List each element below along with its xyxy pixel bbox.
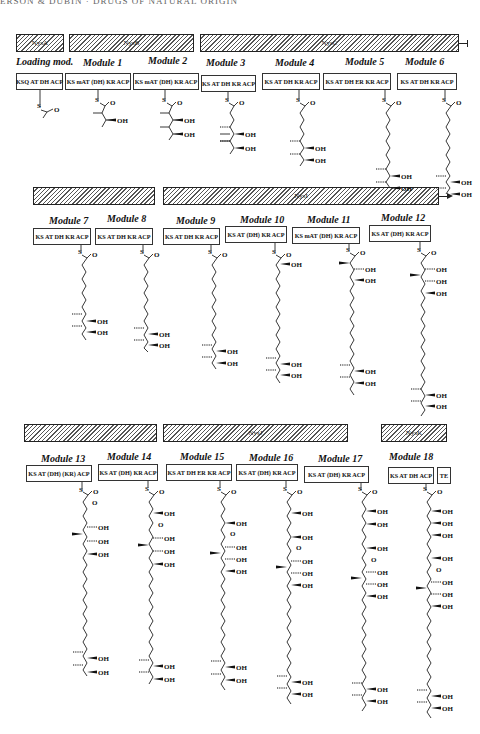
svg-text:O: O [371, 556, 377, 564]
svg-text:S: S [272, 248, 276, 256]
svg-text:S: S [442, 96, 446, 104]
svg-text:O: O [310, 99, 316, 107]
svg-text:O: O [158, 521, 164, 529]
svg-text:O: O [437, 488, 443, 496]
svg-text:S: S [382, 96, 386, 104]
svg-text:O: O [154, 251, 160, 259]
svg-text:O: O [230, 530, 236, 538]
svg-text:S: S [217, 485, 221, 493]
svg-text:S: S [346, 246, 350, 254]
svg-text:S: S [78, 248, 82, 256]
svg-text:O: O [54, 106, 60, 114]
svg-text:O: O [286, 251, 292, 259]
svg-text:S: S [208, 248, 212, 256]
svg-text:S: S [140, 248, 144, 256]
svg-text:O: O [436, 566, 442, 574]
svg-text:S: S [283, 485, 287, 493]
svg-text:O: O [297, 488, 303, 496]
svg-text:S: S [145, 485, 149, 493]
svg-text:O: O [396, 99, 402, 107]
svg-text:O: O [92, 251, 98, 259]
svg-text:S: S [37, 102, 41, 110]
svg-text:O: O [177, 99, 183, 107]
svg-text:O: O [92, 499, 98, 507]
svg-text:S: S [79, 486, 83, 494]
svg-text:O: O [231, 488, 237, 496]
svg-text:O: O [296, 544, 302, 552]
svg-text:O: O [372, 488, 378, 496]
svg-text:S: S [296, 96, 300, 104]
svg-text:O: O [222, 251, 228, 259]
svg-text:O: O [239, 99, 245, 107]
svg-text:S: S [358, 485, 362, 493]
svg-text:O: O [431, 249, 437, 257]
svg-text:S: S [417, 246, 421, 254]
svg-text:O: O [110, 99, 116, 107]
svg-text:O: O [159, 488, 165, 496]
svg-text:O: O [360, 249, 366, 257]
chemical-structures: OH OH [0, 0, 480, 734]
svg-text:S: S [225, 96, 229, 104]
svg-text:S: S [162, 96, 166, 104]
svg-text:S: S [423, 485, 427, 493]
svg-text:O: O [456, 99, 462, 107]
svg-text:S: S [95, 96, 99, 104]
svg-text:O: O [93, 488, 99, 496]
